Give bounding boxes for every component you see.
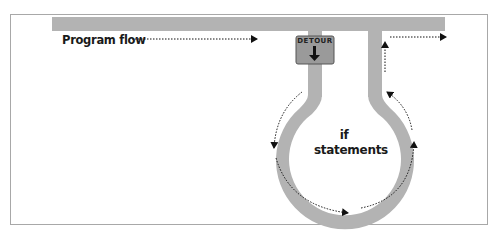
if-label-line2: statements xyxy=(314,143,374,158)
program-flow-label: Program flow xyxy=(62,33,146,47)
if-loop xyxy=(276,95,414,229)
detour-exit-stem xyxy=(368,31,382,97)
if-statements-label: if statements xyxy=(314,128,374,158)
detour-sign-label: DETOUR xyxy=(297,37,333,45)
main-road xyxy=(52,17,445,31)
if-label-line1: if xyxy=(314,128,374,143)
